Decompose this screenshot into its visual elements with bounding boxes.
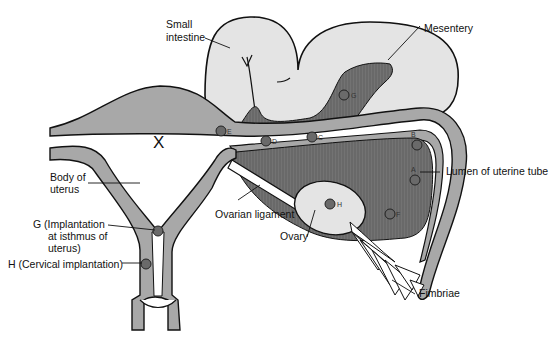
diagram-canvas: A B C D E F G H X Small intestine Mesent… [0,0,556,354]
site-h-label: H [337,201,342,208]
label-fimbriae: Fimbriae [419,287,460,299]
label-lumen-uterine-tube: Lumen of uterine tube [446,165,548,177]
x-mark: X [153,133,164,152]
site-h-cervix-marker [141,259,151,269]
site-d-label: D [272,138,277,145]
label-mesentery: Mesentery [424,22,474,34]
label-body-of-uterus-line2: uterus [50,183,79,195]
site-h-ovary-marker [325,199,335,209]
site-f-marker [385,209,395,219]
site-a-label: A [411,166,416,173]
site-a-marker [410,175,420,185]
site-b-label: B [411,131,416,138]
site-c-label: C [318,134,323,141]
site-f-label: F [396,211,400,218]
site-b-marker [412,140,422,150]
label-g-isthmus-line3: uterus) [48,242,81,254]
label-ovarian-ligament: Ovarian ligament [215,208,294,220]
label-h-cervical: H (Cervical implantation) [8,258,123,270]
label-g-isthmus-line2: at isthmus of [48,230,108,242]
site-e-label: E [227,128,232,135]
label-small-intestine-line2: intestine [166,31,205,43]
site-d-marker [261,136,271,146]
site-g-mesentery-marker [339,90,349,100]
anatomy-diagram: A B C D E F G H X Small intestine Mesent… [0,0,556,354]
label-body-of-uterus-line1: Body of [50,171,86,183]
site-e-marker [216,126,226,136]
label-small-intestine-line1: Small [166,18,192,30]
label-ovary: Ovary [280,230,309,242]
label-g-isthmus-line1: G (Implantation [33,218,105,230]
site-g-isthmus-marker [153,226,163,236]
site-g-label: G [351,92,356,99]
site-c-marker [307,132,317,142]
